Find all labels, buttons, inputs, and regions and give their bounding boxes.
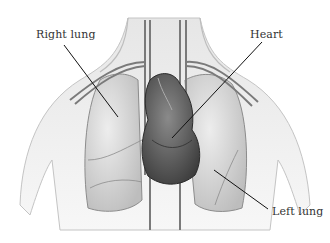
left-lung-label: Left lung — [272, 205, 323, 218]
anatomy-illustration: Right lung Heart Left lung — [0, 0, 330, 243]
right-lung-shape — [85, 74, 142, 211]
right-lung-label: Right lung — [36, 28, 96, 41]
heart-label: Heart — [250, 28, 283, 41]
